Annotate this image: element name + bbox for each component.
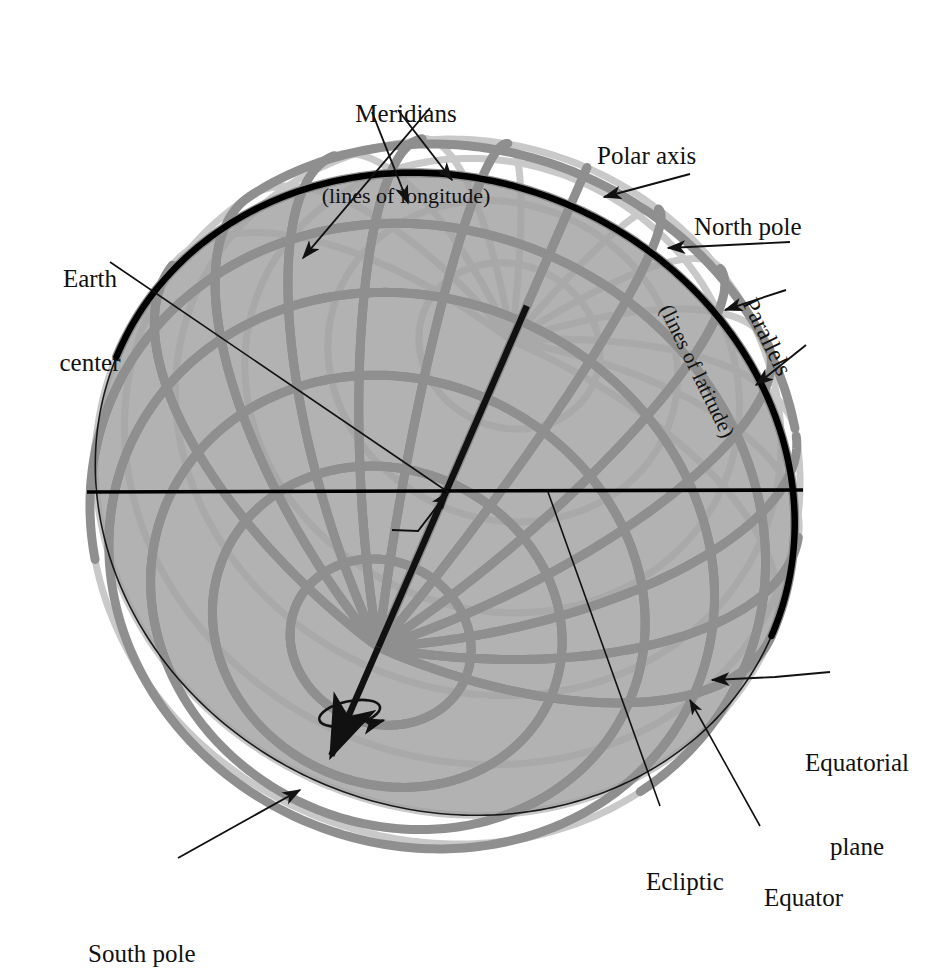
label-earth-center-line2: center <box>20 349 160 377</box>
label-parallels-line1: Parallels <box>714 246 821 429</box>
label-equatorial-plane-line1: Equatorial <box>777 749 935 777</box>
label-south-pole: South pole <box>88 884 196 971</box>
label-south-pole-line1: South pole <box>88 940 196 968</box>
label-equator-line1: Equator <box>764 884 843 912</box>
label-ecliptic: Ecliptic <box>646 812 724 952</box>
label-equator: Equator <box>764 828 843 968</box>
label-polar-axis-line1: Polar axis <box>597 142 696 170</box>
label-meridians-line1: Meridians <box>306 100 506 128</box>
label-ecliptic-line1: Ecliptic <box>646 868 724 896</box>
label-earth-center: Earth center <box>20 209 160 433</box>
label-parallels-line2: (lines of latitude) <box>644 281 749 462</box>
label-polar-axis: Polar axis <box>597 86 696 226</box>
label-meridians-line2: (lines of longitude) <box>306 184 506 209</box>
label-meridians: Meridians (lines of longitude) <box>306 44 506 265</box>
label-earth-center-line1: Earth <box>20 265 160 293</box>
